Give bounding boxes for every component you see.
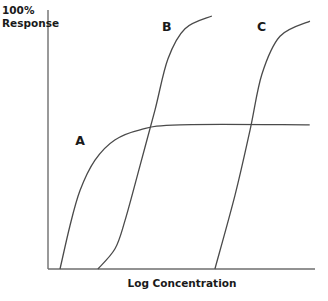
- x-axis-label: Log Concentration: [128, 277, 237, 289]
- curve-label-b: B: [162, 19, 172, 34]
- curve-label-c: C: [257, 19, 266, 34]
- curve-a: [60, 124, 310, 269]
- y-axis-label-line2: Response: [2, 17, 59, 29]
- curves-group: ABC: [60, 16, 310, 269]
- y-axis-label-line1: 100%: [2, 4, 35, 16]
- curve-label-a: A: [75, 133, 85, 148]
- curve-b: [98, 16, 212, 269]
- dose-response-chart: 100% Response Log Concentration ABC: [0, 0, 328, 301]
- curve-c: [215, 21, 310, 269]
